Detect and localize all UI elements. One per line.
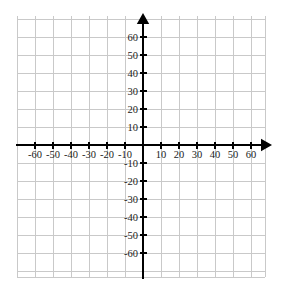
y-tick-label: -30 [124, 194, 138, 205]
y-tick-label: -10 [124, 158, 138, 169]
y-tick-label: -20 [124, 176, 138, 187]
y-tick-label: 30 [128, 86, 139, 97]
y-tick-label: 10 [128, 122, 139, 133]
y-tick-label: -60 [124, 248, 138, 259]
x-tick-label: -30 [82, 149, 96, 160]
y-tick-label: 50 [128, 50, 139, 61]
x-tick-label: -40 [64, 149, 78, 160]
y-tick-label: 40 [128, 68, 139, 79]
x-tick-label: 10 [156, 149, 167, 160]
canvas-background [0, 0, 281, 293]
x-tick-label: 20 [174, 149, 185, 160]
y-tick-label: -40 [124, 212, 138, 223]
y-tick-label: 60 [128, 32, 139, 43]
x-tick-label: 60 [246, 149, 257, 160]
coordinate-plane-svg: -60-50-40-30-20-10102030405060 605040302… [0, 0, 281, 293]
x-tick-label: -50 [46, 149, 60, 160]
x-tick-label: 30 [192, 149, 203, 160]
coordinate-graph: -60-50-40-30-20-10102030405060 605040302… [0, 0, 281, 293]
x-tick-label: 40 [210, 149, 221, 160]
y-tick-label: -50 [124, 230, 138, 241]
x-tick-label: -60 [28, 149, 42, 160]
x-tick-label: -20 [100, 149, 114, 160]
x-tick-label: 50 [228, 149, 239, 160]
y-tick-label: 20 [128, 104, 139, 115]
